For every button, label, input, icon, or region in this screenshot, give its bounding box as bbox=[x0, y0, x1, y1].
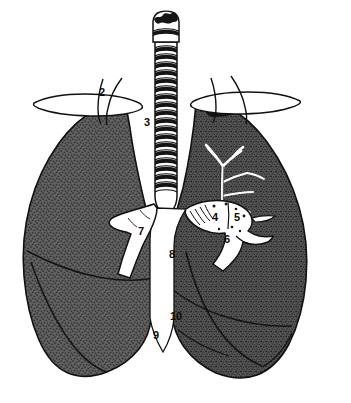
label-6: 6 bbox=[224, 234, 230, 245]
label-4: 4 bbox=[212, 212, 218, 223]
label-10: 10 bbox=[170, 311, 182, 322]
lung-diagram-canvas bbox=[0, 0, 351, 403]
label-3: 3 bbox=[144, 117, 150, 128]
label-5: 5 bbox=[234, 212, 240, 223]
lung-anatomy-figure: 2 3 4 5 6 7 8 9 10 bbox=[0, 0, 351, 403]
label-2: 2 bbox=[99, 87, 105, 98]
label-9: 9 bbox=[153, 330, 159, 341]
label-8: 8 bbox=[169, 249, 175, 260]
label-7: 7 bbox=[138, 226, 144, 237]
larynx bbox=[153, 11, 179, 42]
trachea bbox=[155, 42, 177, 211]
